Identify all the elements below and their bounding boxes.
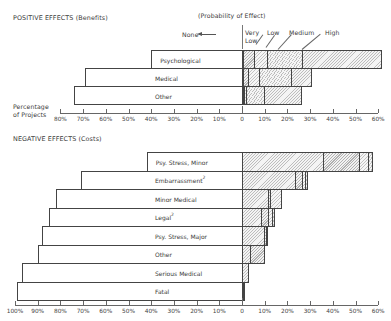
negative-tick [60, 301, 61, 305]
negative-none-bar: Minor Medical [56, 189, 242, 209]
negative-axis-line [15, 305, 378, 306]
positive-tick-label: 30% [167, 116, 180, 122]
negative-probability-segment [271, 189, 282, 209]
positive-tick [174, 109, 175, 113]
negative-tick-label: 20% [190, 308, 203, 314]
negative-tick [151, 301, 152, 305]
positive-probability-segment [268, 50, 302, 69]
negative-tick-label: 30% [304, 308, 317, 314]
legend-zero-divider [242, 25, 243, 49]
negative-tick [287, 301, 288, 305]
negative-probability-segment [244, 282, 246, 302]
positive-tick-label: 40% [326, 116, 339, 122]
negative-tick-label: 60% [372, 308, 385, 314]
positive-probability-segment [244, 50, 255, 69]
negative-category-label: Psy. Stress, Minor [156, 158, 242, 165]
negative-probability-segment [369, 152, 372, 172]
negative-probability-segment [296, 171, 303, 191]
legend-very-low-label-1: Very [245, 29, 259, 36]
negative-tick-label: 30% [167, 308, 180, 314]
legend-title: (Probability of Effect) [198, 12, 266, 19]
negative-probability-segment [242, 171, 296, 191]
negative-tick-label: 40% [145, 308, 158, 314]
positive-tick-label: 50% [122, 116, 135, 122]
negative-probability-segment [267, 226, 269, 246]
negative-probability-segment [242, 245, 251, 265]
negative-tick [174, 301, 175, 305]
legend-none-arrowhead-icon [197, 32, 202, 36]
negative-probability-segment [273, 208, 275, 228]
positive-probability-segment [255, 50, 269, 69]
legend-leader-high [302, 34, 321, 50]
negative-tick-label: 100% [7, 308, 24, 314]
negative-category-label: Embarrassment2 [155, 177, 242, 184]
negative-tick-label: 20% [281, 308, 294, 314]
negative-tick-label: 90% [31, 308, 44, 314]
negative-tick [378, 301, 379, 305]
positive-tick-label: 30% [304, 116, 317, 122]
negative-category-label: Legal2 [155, 214, 242, 221]
negative-category-label: Fatal [155, 288, 242, 295]
positive-tick [310, 109, 311, 113]
negative-effects-title: NEGATIVE EFFECTS (Costs) [13, 135, 102, 143]
negative-none-bar: Psy. Stress, Minor [147, 152, 242, 172]
negative-tick [197, 301, 198, 305]
negative-tick-label: 60% [99, 308, 112, 314]
negative-probability-segment [242, 152, 324, 172]
positive-none-bar: Psychological [151, 50, 242, 69]
negative-probability-segment [360, 152, 369, 172]
negative-tick-label: 80% [54, 308, 67, 314]
negative-none-bar: Legal2 [49, 208, 242, 228]
negative-none-bar: Other [38, 245, 242, 265]
positive-tick [106, 109, 107, 113]
negative-probability-segment [242, 263, 249, 283]
positive-tick-label: 50% [349, 116, 362, 122]
positive-tick [197, 109, 198, 113]
positive-tick-label: 0 [240, 116, 244, 122]
negative-tick [219, 301, 220, 305]
positive-probability-segment [292, 68, 312, 87]
positive-tick-label: 60% [99, 116, 112, 122]
positive-tick-label: 60% [372, 116, 385, 122]
axis-label-line1: Percentage [13, 103, 49, 110]
positive-tick [287, 109, 288, 113]
negative-tick [106, 301, 107, 305]
negative-tick [83, 301, 84, 305]
negative-tick-label: 70% [77, 308, 90, 314]
negative-tick-label: 50% [349, 308, 362, 314]
negative-probability-segment [242, 189, 269, 209]
positive-tick [219, 109, 220, 113]
positive-tick [265, 109, 266, 113]
positive-category-label: Psychological [160, 56, 242, 63]
positive-tick-label: 40% [145, 116, 158, 122]
negative-tick-label: 10% [213, 308, 226, 314]
positive-tick [356, 109, 357, 113]
positive-tick-label: 10% [213, 116, 226, 122]
positive-probability-segment [260, 68, 292, 87]
positive-probability-segment [247, 86, 265, 105]
negative-tick [310, 301, 311, 305]
legend-none-arrow-icon [200, 34, 216, 35]
positive-none-bar: Medical [85, 68, 242, 87]
positive-tick [333, 109, 334, 113]
legend-medium-label: Medium [289, 29, 314, 36]
negative-tick-label: 10% [258, 308, 271, 314]
positive-tick-label: 80% [54, 116, 67, 122]
negative-tick [242, 298, 243, 305]
positive-tick-label: 20% [190, 116, 203, 122]
negative-probability-segment [242, 226, 265, 246]
positive-tick-label: 70% [77, 116, 90, 122]
negative-none-bar: Serious Medical [22, 263, 242, 283]
positive-tick [378, 109, 379, 113]
negative-category-label: Minor Medical [155, 195, 242, 202]
negative-tick-label: 0 [240, 308, 244, 314]
legend-leader-low [266, 35, 275, 48]
axis-label-line2: of Projects [13, 111, 46, 118]
negative-tick-label: 40% [326, 308, 339, 314]
negative-category-label: Psy. Stress, Major [155, 232, 242, 239]
positive-axis-line [60, 113, 378, 114]
positive-tick [83, 109, 84, 113]
positive-tick [129, 109, 130, 113]
negative-tick [15, 301, 16, 305]
negative-tick [38, 301, 39, 305]
